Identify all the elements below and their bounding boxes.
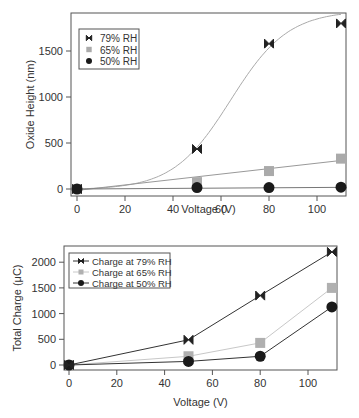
series-0-bowtie-marker — [256, 291, 265, 300]
y-tick-label: 2000 — [32, 256, 56, 268]
series-2-circle-marker — [183, 356, 194, 367]
x-tick-label: 20 — [119, 203, 131, 215]
y-tick-label: 0 — [50, 359, 56, 371]
x-tick-label: 40 — [158, 377, 170, 389]
series-2-circle-marker — [336, 182, 347, 193]
y-axis: 050010001500 — [39, 45, 71, 195]
x-tick-label: 100 — [299, 377, 317, 389]
y-axis-label: Oxide Height (nm) — [24, 60, 36, 149]
x-tick-label: 80 — [254, 377, 266, 389]
fit-line-65 — [77, 160, 341, 190]
series-1-square-marker — [255, 338, 265, 348]
series-0-bowtie-marker — [337, 19, 346, 28]
series-0-bowtie-marker — [193, 144, 202, 153]
y-axis: 0500100015002000 — [32, 256, 64, 371]
legend-label: 65% RH — [100, 45, 137, 56]
x-tick-label: 60 — [206, 377, 218, 389]
series-2-circle-marker — [255, 351, 266, 362]
oxide-height-chart: 020406080100 050010001500 Voltage (V) Ox… — [24, 13, 347, 215]
x-tick-label: 80 — [263, 203, 275, 215]
y-tick-label: 1500 — [39, 45, 63, 57]
series-0-bowtie-marker — [327, 247, 336, 256]
x-axis-label: Voltage (V) — [173, 396, 227, 408]
x-tick-label: 0 — [74, 203, 80, 215]
legend-1-square-marker — [79, 270, 84, 275]
series-2-circle-marker — [326, 301, 337, 312]
series-0-bowtie-marker — [265, 39, 274, 48]
series-1-square-marker — [336, 154, 346, 164]
series-2-circle-marker — [264, 182, 275, 193]
x-axis-label: Voltage (V) — [181, 203, 235, 215]
x-axis: 020406080100 — [66, 370, 317, 389]
series-1-square-marker — [264, 166, 274, 176]
series-2-circle-marker — [192, 182, 203, 193]
legend: Charge at 79% RHCharge at 65% RHCharge a… — [69, 253, 172, 289]
legend-label: 50% RH — [100, 56, 137, 67]
legend-label: Charge at 79% RH — [92, 256, 172, 267]
figure: 020406080100 050010001500 Voltage (V) Ox… — [0, 0, 359, 418]
y-tick-label: 1000 — [32, 308, 56, 320]
legend-2-circle-marker — [78, 280, 84, 286]
y-tick-label: 500 — [45, 137, 63, 149]
y-tick-label: 1000 — [39, 91, 63, 103]
total-charge-chart: 020406080100 0500100015002000 Voltage (V… — [11, 246, 337, 408]
fit-line-50 — [77, 187, 341, 189]
y-tick-label: 500 — [38, 333, 56, 345]
y-axis-label: Total Charge (μC) — [11, 264, 23, 351]
legend-label: 79% RH — [100, 33, 137, 44]
legend-2-circle-marker — [86, 58, 92, 64]
legend-label: Charge at 65% RH — [92, 267, 172, 278]
series-1-square-marker — [327, 283, 337, 293]
legend-label: Charge at 50% RH — [92, 278, 172, 289]
y-tick-label: 0 — [57, 183, 63, 195]
x-tick-label: 0 — [66, 377, 72, 389]
legend: 79% RH65% RH50% RH — [79, 29, 139, 69]
x-tick-label: 20 — [111, 377, 123, 389]
series-2-circle-marker — [72, 184, 83, 195]
y-tick-label: 1500 — [32, 282, 56, 294]
legend-1-square-marker — [86, 47, 91, 52]
x-tick-label: 40 — [167, 203, 179, 215]
x-tick-label: 100 — [308, 203, 326, 215]
series-0-bowtie-marker — [184, 335, 193, 344]
series-line-1 — [69, 288, 332, 365]
